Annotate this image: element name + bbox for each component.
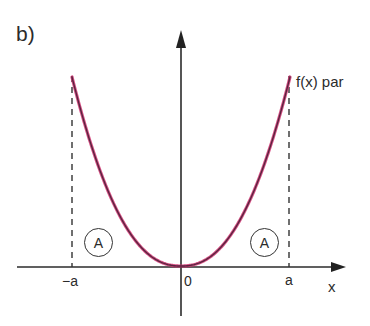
- tick-label-minus-a: −a: [62, 274, 78, 288]
- x-axis-name: x: [328, 279, 336, 294]
- panel-label: b): [16, 23, 35, 44]
- even-function-diagram: b) f(x) par −a 0 a x A A: [0, 0, 370, 326]
- function-label: f(x) par: [296, 74, 344, 89]
- y-axis-arrow-icon: [176, 30, 186, 48]
- x-axis-arrow-icon: [331, 262, 346, 272]
- area-region-left: A: [84, 228, 113, 257]
- tick-label-a: a: [285, 273, 293, 287]
- area-region-right: A: [250, 228, 279, 257]
- area-label-left: A: [94, 235, 103, 251]
- tick-label-zero: 0: [184, 274, 192, 288]
- area-label-right: A: [260, 235, 269, 251]
